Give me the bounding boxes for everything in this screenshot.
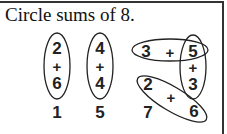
p5-top: 4 <box>90 40 110 57</box>
p5-label: 5 <box>90 104 110 121</box>
p7-op-bc: + <box>183 59 203 76</box>
p1-op: + <box>47 58 67 75</box>
p7-b: 5 <box>183 43 203 60</box>
p7-op-de: + <box>161 89 181 106</box>
p5-bottom: 4 <box>90 75 110 92</box>
p7-e: 6 <box>184 103 204 120</box>
p7-label: 7 <box>138 104 158 121</box>
p1-bottom: 6 <box>47 75 67 92</box>
p5-op: + <box>90 58 110 75</box>
p7-op-ab: + <box>160 44 180 61</box>
p7-d: 2 <box>138 76 158 93</box>
p1-top: 2 <box>47 40 67 57</box>
p1-label: 1 <box>47 104 67 121</box>
p7-a: 3 <box>136 43 156 60</box>
p7-c: 3 <box>183 76 203 93</box>
